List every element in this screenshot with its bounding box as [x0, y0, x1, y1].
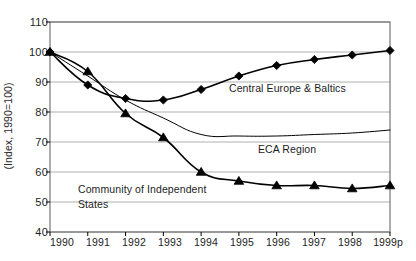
annotation-eca-region: ECA Region [258, 143, 316, 156]
annotation-cis-line-2: States [78, 198, 108, 211]
series-2 [45, 47, 395, 191]
annotation-central-europe-baltics: Central Europe & Baltics [229, 82, 346, 95]
x-tick-label: 1999p [373, 236, 403, 248]
x-tick-label: 1994 [194, 236, 218, 248]
data-point-marker [386, 46, 394, 54]
x-tick-label: 1998 [338, 236, 362, 248]
data-point-marker [310, 55, 318, 63]
data-point-marker [273, 61, 281, 69]
x-tick-label: 1992 [122, 236, 146, 248]
chart-container: (Index, 1990=100) 110 100 90 80 70 60 50… [0, 0, 416, 261]
x-tick-label: 1995 [230, 236, 254, 248]
data-point-marker [197, 85, 205, 93]
x-tick-label: 1990 [50, 236, 74, 248]
series-line [50, 52, 390, 189]
x-axis-tick-labels: 1990 1991 1992 1993 1994 1995 1996 1997 … [0, 236, 416, 254]
series-1 [46, 46, 394, 104]
x-tick-label: 1991 [86, 236, 110, 248]
series-layer [45, 46, 395, 191]
data-point-marker [385, 181, 395, 189]
data-point-marker [159, 96, 167, 104]
x-tick-label: 1997 [302, 236, 326, 248]
data-point-marker [196, 167, 206, 175]
plot-area [0, 0, 416, 261]
x-tick-label: 1993 [158, 236, 182, 248]
x-tick-label: 1996 [266, 236, 290, 248]
data-point-marker [235, 72, 243, 80]
annotation-cis-line-1: Community of Independent [78, 183, 206, 196]
